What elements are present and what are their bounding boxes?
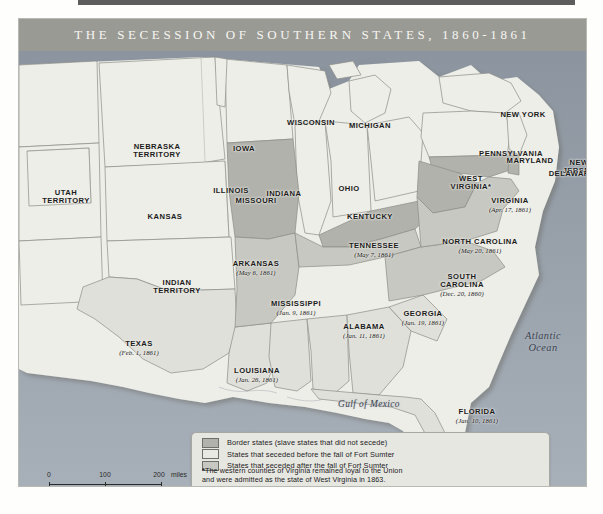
region-label-kansas: KANSAS [148,213,183,222]
texas-date: (Feb. 1, 1861) [119,349,159,358]
water-label-atlantic-ocean: Atlantic Ocean [525,330,561,354]
scale-miles-tick-200: 200 [153,471,164,478]
region-label-texas: TEXAS (Feb. 1, 1861) [119,340,159,357]
louisiana-date: (Jan. 26, 1861) [234,376,280,385]
nebraska-territory-line2: TERRITORY [133,151,181,159]
west-virginia-line2: VIRGINIA* [451,183,492,191]
scale-miles-labels: 0 100 200 miles [47,471,197,480]
legend-label-border-states: Border states (slave states that did not… [227,438,387,447]
region-label-wisconsin: WISCONSIN [287,119,335,128]
alabama-name: ALABAMA [343,322,385,331]
region-label-missouri: MISSOURI [235,197,276,206]
atlantic-ocean-line1: Atlantic [525,330,561,341]
legend-footnote: *The western counties of Virginia remain… [202,466,537,484]
region-label-delaware: DELAWARE [549,170,587,179]
region-label-virginia: VIRGINIA (Apr. 17, 1861) [489,197,531,214]
mississippi-name: MISSISSIPPI [271,299,321,308]
scale-miles-unit: miles [171,471,187,478]
virginia-name: VIRGINIA [491,196,528,205]
legend-item-border-states: Border states (slave states that did not… [192,437,549,449]
louisiana-name: LOUISIANA [234,366,280,375]
scale-tick-1 [105,482,106,487]
scale-bar: 0 100 200 miles 0 100 200 kilometers [47,471,197,487]
alabama-date: (Jan. 11, 1861) [343,332,385,341]
region-label-ohio: OHIO [338,185,359,194]
map-screenshot: THE SECESSION OF SOUTHERN STATES, 1860-1… [0,0,603,514]
texas-name: TEXAS [125,339,153,348]
mississippi-date: (Jan. 9, 1861) [271,309,321,318]
north-carolina-name: NORTH CAROLINA [442,237,517,246]
legend-swatch-border-states [202,438,219,448]
region-label-tennessee: TENNESSEE (May 7, 1861) [349,242,399,259]
florida-date: (Jan. 10, 1861) [456,417,498,426]
region-label-florida: FLORIDA (Jan. 10, 1861) [456,408,498,425]
utah-territory-line2: TERRITORY [42,197,90,205]
map-title: THE SECESSION OF SOUTHERN STATES, 1860-1… [19,19,586,51]
indian-territory-line2: TERRITORY [153,287,201,295]
region-label-illinois: ILLINOIS [213,187,249,196]
top-rule [78,0,575,5]
map-legend: Border states (slave states that did not… [191,432,550,487]
region-label-kentucky: KENTUCKY [347,213,393,222]
arkansas-name: ARKANSAS [233,259,280,268]
legend-label-seceded-before: States that seceded before the fall of F… [227,450,394,459]
region-label-louisiana: LOUISIANA (Jan. 26, 1861) [234,367,280,384]
region-label-north-carolina: NORTH CAROLINA (May 20, 1861) [442,238,517,255]
virginia-date: (Apr. 17, 1861) [489,206,531,215]
arkansas-date: (May 6, 1861) [233,269,280,278]
region-label-mississippi: MISSISSIPPI (Jan. 9, 1861) [271,300,321,317]
region-label-utah-territory: UTAH TERRITORY [42,189,90,206]
region-label-georgia: GEORGIA (Jan. 19, 1861) [402,310,444,327]
georgia-date: (Jan. 19, 1861) [402,319,444,328]
water-label-gulf-of-mexico: Gulf of Mexico [338,400,400,409]
region-label-alabama: ALABAMA (Jan. 11, 1861) [343,323,385,340]
region-label-michigan: MICHIGAN [349,122,391,131]
north-carolina-date: (May 20, 1861) [442,247,517,256]
region-label-nebraska-territory: NEBRASKA TERRITORY [133,143,181,160]
south-carolina-date: (Dec. 20, 1860) [440,290,484,298]
legend-item-seceded-before: States that seceded before the fall of F… [192,449,549,461]
region-label-west-virginia: WEST VIRGINIA* [451,175,492,192]
footnote-line1: The western counties of Virginia remaine… [205,466,403,475]
south-carolina-line2: CAROLINA [440,282,484,290]
scale-tick-2 [161,482,162,487]
georgia-name: GEORGIA [403,309,442,318]
scale-miles-tick-0: 0 [47,471,51,478]
tennessee-name: TENNESSEE [349,241,399,250]
region-label-maryland: MARYLAND [507,157,554,166]
scale-miles-tick-100: 100 [99,471,110,478]
legend-swatch-seceded-before [202,449,219,459]
scale-ruler [47,481,197,487]
region-label-new-york: NEW YORK [500,111,545,120]
region-label-south-carolina: SOUTH CAROLINA (Dec. 20, 1860) [440,273,484,298]
footnote-line2: and were admitted as the state of West V… [202,475,386,484]
region-label-arkansas: ARKANSAS (May 6, 1861) [233,260,280,277]
scale-tick-0 [49,482,50,487]
region-label-iowa: IOWA [233,145,255,154]
atlantic-ocean-line2: Ocean [525,342,561,354]
region-label-indian-territory: INDIAN TERRITORY [153,279,201,296]
map-frame: THE SECESSION OF SOUTHERN STATES, 1860-1… [18,18,587,487]
florida-name: FLORIDA [459,407,496,416]
tennessee-date: (May 7, 1861) [349,251,399,260]
